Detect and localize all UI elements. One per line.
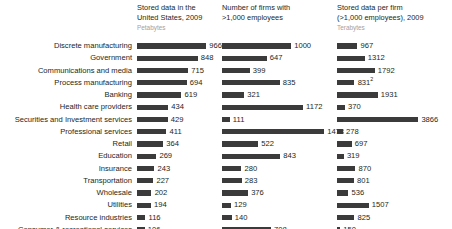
category-label: Education <box>0 150 132 162</box>
bar-value-label: 8312 <box>358 77 374 89</box>
bar <box>137 56 198 61</box>
bar-value-label: 1000 <box>294 40 311 52</box>
bar <box>222 105 303 110</box>
bar-value-label: 697 <box>355 138 368 150</box>
column-header-stored-data-per-firm: Stored data per firm(>1,000 employees), … <box>337 3 424 32</box>
bar-value-label: 619 <box>184 89 197 101</box>
bar <box>337 215 354 220</box>
category-label: Health care providers <box>0 101 132 113</box>
bar-value-label: 278 <box>346 126 359 138</box>
bar-value-label: 280 <box>245 163 258 175</box>
bar-value-label: 835 <box>283 77 296 89</box>
bar <box>337 154 344 159</box>
bar <box>137 129 166 134</box>
bar-value-label: 3866 <box>421 114 438 126</box>
bar <box>222 43 291 48</box>
bar <box>337 56 365 61</box>
bar <box>137 68 188 73</box>
bar <box>337 166 355 171</box>
bar-value-label: 647 <box>270 52 283 64</box>
bar-value-label: 843 <box>283 150 296 162</box>
bar-value-label: 319 <box>347 150 360 162</box>
bar-value-label: 434 <box>171 101 184 113</box>
category-label: Transportation <box>0 175 132 187</box>
stored-data-chart: Stored data in theUnited States, 2009 Pe… <box>0 0 452 229</box>
category-label: Resource industries <box>0 212 132 224</box>
bar <box>137 178 153 183</box>
bar-value-label: 364 <box>166 138 179 150</box>
bar <box>337 68 375 73</box>
bar <box>337 117 418 122</box>
bar <box>137 92 181 97</box>
bar-value-label: 227 <box>156 175 169 187</box>
bar <box>222 92 244 97</box>
bar-value-label: 1312 <box>368 52 385 64</box>
bar <box>222 56 267 61</box>
bar-value-label: 111 <box>233 114 245 126</box>
bar-value-label: 801 <box>357 175 370 187</box>
bar <box>137 166 154 171</box>
bar <box>222 166 241 171</box>
bar <box>222 68 250 73</box>
column-title: Stored data per firm(>1,000 employees), … <box>337 3 424 22</box>
bar <box>337 141 352 146</box>
bar-value-label: 269 <box>159 150 172 162</box>
bar <box>137 117 168 122</box>
column-unit: Terabytes <box>337 23 424 32</box>
bar-value-label: 129 <box>234 199 247 211</box>
category-label: Government <box>0 52 132 64</box>
bar-value-label: 370 <box>348 101 361 113</box>
bar-value-label: 411 <box>170 126 182 138</box>
bar <box>222 190 248 195</box>
bar <box>337 92 378 97</box>
bar <box>222 154 280 159</box>
bar <box>222 129 324 134</box>
bar <box>222 117 230 122</box>
column-unit: Petabytes <box>137 23 202 32</box>
bar <box>222 203 231 208</box>
column-title: Stored data in theUnited States, 2009 <box>137 3 202 22</box>
bar <box>337 227 340 229</box>
bar-value-label: 708 <box>274 224 287 229</box>
category-label: Communications and media <box>0 65 132 77</box>
bar-value-label: 825 <box>358 212 371 224</box>
bar-value-label: 243 <box>158 163 171 175</box>
category-label: Professional services <box>0 126 132 138</box>
bar <box>137 190 151 195</box>
bar <box>337 105 345 110</box>
bar-value-label: 522 <box>261 138 274 150</box>
bar-value-label: 283 <box>245 175 258 187</box>
bar-value-label: 150 <box>343 224 356 229</box>
bar-value-label: 870 <box>358 163 371 175</box>
bar <box>337 190 348 195</box>
bar <box>222 178 242 183</box>
bar <box>222 80 280 85</box>
bar-value-label: 715 <box>191 65 204 77</box>
bar <box>337 203 369 208</box>
bar <box>137 215 145 220</box>
bar-value-label: 321 <box>247 89 260 101</box>
bar-value-label: 194 <box>154 199 167 211</box>
category-label: Banking <box>0 89 132 101</box>
bar-value-label: 966 <box>209 40 222 52</box>
bar-value-label: 536 <box>351 187 364 199</box>
column-header-number-of-firms: Number of firms with>1,000 employees <box>222 3 290 32</box>
category-label: Wholesale <box>0 187 132 199</box>
bar <box>337 178 354 183</box>
bar-value-label: 694 <box>190 77 203 89</box>
bar <box>137 203 151 208</box>
category-label: Securities and Investment services <box>0 114 132 126</box>
bar-value-label: 116 <box>148 212 160 224</box>
bar <box>337 129 343 134</box>
column-unit <box>222 23 290 32</box>
column-header-stored-data-us: Stored data in theUnited States, 2009 Pe… <box>137 3 202 32</box>
footnote-marker: 2 <box>370 76 373 82</box>
category-label: Utilities <box>0 199 132 211</box>
bar-value-label: 202 <box>155 187 168 199</box>
bar <box>222 141 258 146</box>
category-label: Discrete manufacturing <box>0 40 132 52</box>
bar <box>137 43 206 48</box>
bar <box>137 105 168 110</box>
category-label: Retail <box>0 138 132 150</box>
bar <box>222 215 232 220</box>
